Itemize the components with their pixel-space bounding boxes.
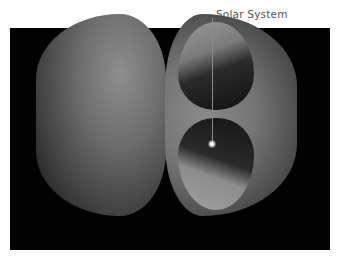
solar-system-label: Solar System xyxy=(216,8,288,20)
label-leader-line xyxy=(212,18,213,144)
solar-system-point xyxy=(208,140,216,148)
left-hemisphere xyxy=(36,14,166,216)
